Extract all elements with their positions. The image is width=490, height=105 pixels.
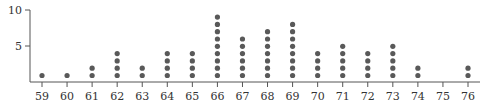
data-dot — [340, 44, 345, 49]
x-tick-label: 59 — [35, 90, 49, 103]
data-dot — [340, 58, 345, 63]
x-tick-label: 63 — [135, 90, 149, 103]
data-dot — [165, 51, 170, 56]
data-dot — [465, 73, 470, 78]
data-dot — [215, 36, 220, 41]
x-tick-label: 72 — [361, 90, 375, 103]
data-dot — [215, 44, 220, 49]
y-axis: 510 — [8, 4, 30, 82]
x-tick-label: 75 — [436, 90, 450, 103]
y-tick-label: 5 — [15, 40, 22, 53]
data-dot — [465, 66, 470, 71]
data-dot — [265, 51, 270, 56]
x-tick-label: 69 — [286, 90, 300, 103]
data-dot — [415, 66, 420, 71]
x-tick-label: 68 — [261, 90, 275, 103]
data-dot — [240, 58, 245, 63]
data-dot — [215, 29, 220, 34]
data-dot — [290, 51, 295, 56]
data-dots — [39, 15, 470, 79]
data-dot — [390, 44, 395, 49]
data-dot — [265, 73, 270, 78]
data-dot — [90, 73, 95, 78]
data-dot — [190, 66, 195, 71]
data-dot — [240, 44, 245, 49]
y-tick-label: 10 — [8, 4, 22, 17]
data-dot — [115, 51, 120, 56]
data-dot — [290, 29, 295, 34]
data-dot — [190, 73, 195, 78]
x-tick-label: 66 — [210, 90, 224, 103]
data-dot — [390, 66, 395, 71]
data-dot — [215, 58, 220, 63]
data-dot — [215, 15, 220, 20]
data-dot — [365, 66, 370, 71]
data-dot — [290, 44, 295, 49]
data-dot — [140, 73, 145, 78]
data-dot — [165, 66, 170, 71]
x-tick-label: 70 — [311, 90, 325, 103]
x-axis: 596061626364656667686970717273747576 — [30, 82, 480, 103]
data-dot — [315, 51, 320, 56]
data-dot — [215, 51, 220, 56]
x-tick-label: 67 — [235, 90, 249, 103]
data-dot — [265, 29, 270, 34]
data-dot — [290, 58, 295, 63]
data-dot — [115, 73, 120, 78]
data-dot — [265, 66, 270, 71]
data-dot — [190, 58, 195, 63]
data-dot — [90, 66, 95, 71]
data-dot — [340, 73, 345, 78]
data-dot — [290, 36, 295, 41]
x-tick-label: 64 — [160, 90, 174, 103]
data-dot — [365, 58, 370, 63]
data-dot — [265, 58, 270, 63]
data-dot — [290, 73, 295, 78]
data-dot — [290, 22, 295, 27]
data-dot — [64, 73, 69, 78]
x-tick-label: 60 — [60, 90, 74, 103]
x-tick-label: 62 — [110, 90, 124, 103]
x-tick-label: 76 — [461, 90, 475, 103]
data-dot — [115, 66, 120, 71]
x-tick-label: 61 — [85, 90, 99, 103]
data-dot — [215, 22, 220, 27]
data-dot — [215, 73, 220, 78]
data-dot — [215, 66, 220, 71]
data-dot — [340, 51, 345, 56]
data-dot — [240, 36, 245, 41]
data-dot — [390, 51, 395, 56]
data-dot — [240, 66, 245, 71]
data-dot — [290, 66, 295, 71]
data-dot — [240, 51, 245, 56]
data-dot — [165, 73, 170, 78]
data-dot — [39, 73, 44, 78]
data-dot — [240, 73, 245, 78]
data-dot — [415, 73, 420, 78]
data-dot — [340, 66, 345, 71]
data-dot — [165, 58, 170, 63]
data-dot — [390, 73, 395, 78]
x-tick-label: 74 — [411, 90, 425, 103]
data-dot — [190, 51, 195, 56]
data-dot — [315, 66, 320, 71]
x-tick-label: 73 — [386, 90, 400, 103]
data-dot — [265, 44, 270, 49]
data-dot — [265, 36, 270, 41]
data-dot — [365, 51, 370, 56]
data-dot — [315, 73, 320, 78]
data-dot — [365, 73, 370, 78]
data-dot — [315, 58, 320, 63]
data-dot — [140, 66, 145, 71]
dot-plot-chart: 510 596061626364656667686970717273747576 — [0, 0, 490, 105]
x-tick-label: 65 — [185, 90, 199, 103]
data-dot — [390, 58, 395, 63]
data-dot — [115, 58, 120, 63]
x-tick-label: 71 — [336, 90, 350, 103]
